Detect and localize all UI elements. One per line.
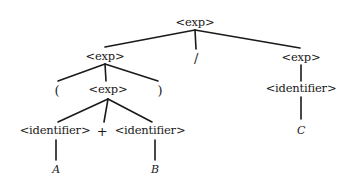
tree-node-term-b: B [151, 164, 159, 175]
tree-node-right-exp: <exp> [282, 52, 321, 64]
tree-edge-left-exp-to-lparen [58, 64, 105, 81]
tree-node-term-a: A [52, 164, 60, 175]
tree-node-rparen: ) [158, 84, 163, 97]
tree-edge-root-to-slash [195, 30, 196, 49]
tree-node-ident-a: <identifier> [20, 125, 91, 137]
tree-edge-left-exp-to-inner-exp [105, 64, 106, 81]
tree-edge-left-exp-to-rparen [105, 64, 158, 81]
parse-tree-diagram: <exp><exp>/<exp>(<exp>)<identifier><iden… [0, 0, 356, 191]
tree-edge-inner-exp-to-ident-b [108, 99, 152, 122]
tree-edge-root-to-left-exp [105, 30, 195, 47]
tree-node-ident-b: <identifier> [115, 125, 186, 137]
tree-node-root: <exp> [176, 17, 215, 29]
tree-node-plus: + [97, 125, 108, 138]
tree-edge-root-to-right-exp [195, 30, 300, 48]
tree-node-right-ident: <identifier> [266, 83, 337, 95]
tree-edge-inner-exp-to-plus [104, 99, 108, 122]
tree-edge-inner-exp-to-ident-a [58, 99, 108, 122]
tree-node-left-exp: <exp> [86, 51, 125, 63]
tree-node-inner-exp: <exp> [89, 84, 128, 96]
tree-node-slash: / [194, 52, 198, 65]
tree-node-lparen: ( [55, 84, 60, 97]
tree-node-term-c: C [297, 125, 305, 136]
